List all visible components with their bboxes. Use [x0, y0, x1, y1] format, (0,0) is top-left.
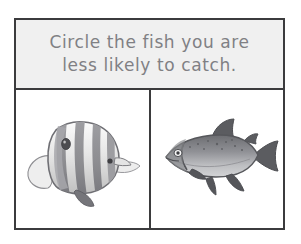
- butterflyfish-snout: [114, 158, 131, 166]
- choice-cell-butterflyfish[interactable]: [16, 90, 151, 228]
- trout-icon[interactable]: [154, 113, 280, 205]
- choice-cell-trout[interactable]: [151, 90, 284, 228]
- butterflyfish-icon[interactable]: [22, 104, 142, 214]
- trout-pelvic-fin: [206, 177, 216, 195]
- instruction-text: Circle the fish you are less likely to c…: [43, 31, 255, 77]
- butterflyfish-eye: [62, 138, 71, 149]
- instruction-band: Circle the fish you are less likely to c…: [16, 20, 283, 90]
- butterflyfish-eye-highlight: [64, 140, 67, 143]
- worksheet-frame: Circle the fish you are less likely to c…: [14, 18, 285, 230]
- trout-pupil: [176, 151, 179, 154]
- butterflyfish-eyespot: [108, 158, 113, 163]
- trout-anal-fin: [226, 174, 244, 191]
- choices-row: [16, 90, 283, 228]
